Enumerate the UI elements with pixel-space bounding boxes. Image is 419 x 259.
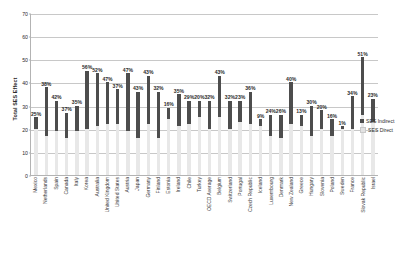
bar-group[interactable]: 52% (92, 14, 102, 175)
stacked-bar[interactable]: 43% (136, 92, 139, 175)
bar-segment-ses-direct[interactable] (85, 129, 88, 175)
bar-group[interactable]: 24% (266, 14, 276, 175)
bar-segment-ses-direct[interactable] (75, 131, 78, 175)
bar-segment-ses-indirect[interactable] (126, 73, 129, 131)
bar-segment-ses-direct[interactable] (249, 124, 252, 175)
bar-segment-ses-indirect[interactable] (228, 101, 231, 129)
bar-group[interactable]: 23% (368, 14, 378, 175)
bar-segment-ses-indirect[interactable] (351, 96, 354, 128)
bar-segment-ses-indirect[interactable] (320, 110, 323, 129)
bar-group[interactable]: 1% (337, 14, 347, 175)
stacked-bar[interactable]: 37% (116, 89, 119, 175)
stacked-bar[interactable]: 1% (341, 126, 344, 175)
bar-segment-ses-direct[interactable] (228, 129, 231, 175)
stacked-bar[interactable]: 13% (300, 115, 303, 175)
bar-segment-ses-indirect[interactable] (177, 94, 180, 126)
bar-segment-ses-indirect[interactable] (96, 73, 99, 126)
bar-segment-ses-indirect[interactable] (85, 71, 88, 129)
stacked-bar[interactable]: 16% (330, 119, 333, 175)
bar-segment-ses-direct[interactable] (126, 131, 129, 175)
bar-group[interactable]: 47% (123, 14, 133, 175)
bar-segment-ses-indirect[interactable] (238, 101, 241, 122)
bar-group[interactable]: 37% (62, 14, 72, 175)
bar-group[interactable]: 35% (174, 14, 184, 175)
stacked-bar[interactable]: 38% (45, 87, 48, 175)
bar-group[interactable]: 40% (286, 14, 296, 175)
bar-segment-ses-indirect[interactable] (208, 101, 211, 129)
bar-segment-ses-direct[interactable] (300, 126, 303, 175)
bar-segment-ses-direct[interactable] (136, 138, 139, 175)
bar-group[interactable]: 13% (296, 14, 306, 175)
bar-group[interactable]: 56% (82, 14, 92, 175)
stacked-bar[interactable]: 35% (177, 94, 180, 175)
bar-segment-ses-direct[interactable] (238, 122, 241, 175)
stacked-bar[interactable]: 29% (187, 101, 190, 175)
bar-segment-ses-indirect[interactable] (249, 92, 252, 124)
bar-segment-ses-direct[interactable] (351, 129, 354, 175)
bar-group[interactable]: 37% (113, 14, 123, 175)
bar-segment-ses-indirect[interactable] (147, 76, 150, 125)
bar-segment-ses-direct[interactable] (157, 138, 160, 175)
stacked-bar[interactable]: 20% (320, 110, 323, 175)
bar-segment-ses-indirect[interactable] (187, 101, 190, 124)
bar-group[interactable]: 16% (164, 14, 174, 175)
bar-segment-ses-indirect[interactable] (167, 108, 170, 120)
bar-segment-ses-direct[interactable] (167, 119, 170, 175)
bar-group[interactable]: 34% (347, 14, 357, 175)
bar-segment-ses-indirect[interactable] (269, 115, 272, 136)
stacked-bar[interactable]: 20% (198, 101, 201, 175)
bar-segment-ses-direct[interactable] (289, 124, 292, 175)
bar-group[interactable]: 32% (204, 14, 214, 175)
stacked-bar[interactable]: 23% (238, 101, 241, 175)
bar-segment-ses-indirect[interactable] (310, 106, 313, 136)
bar-group[interactable]: 20% (194, 14, 204, 175)
stacked-bar[interactable]: 16% (167, 108, 170, 175)
bar-segment-ses-direct[interactable] (208, 129, 211, 175)
bar-group[interactable]: 26% (276, 14, 286, 175)
bar-segment-ses-indirect[interactable] (330, 119, 333, 135)
bar-segment-ses-direct[interactable] (269, 136, 272, 175)
bar-segment-ses-indirect[interactable] (361, 57, 364, 115)
stacked-bar[interactable]: 25% (34, 117, 37, 175)
bar-segment-ses-direct[interactable] (116, 124, 119, 175)
bar-group[interactable]: 25% (31, 14, 41, 175)
stacked-bar[interactable]: 37% (65, 113, 68, 175)
bar-segment-ses-direct[interactable] (177, 126, 180, 175)
stacked-bar[interactable]: 35% (75, 106, 78, 175)
stacked-bar[interactable]: 52% (96, 73, 99, 175)
bar-segment-ses-indirect[interactable] (259, 119, 262, 126)
bar-group[interactable]: 20% (317, 14, 327, 175)
bar-group[interactable]: 43% (215, 14, 225, 175)
bar-segment-ses-direct[interactable] (187, 124, 190, 175)
bar-segment-ses-direct[interactable] (65, 138, 68, 175)
bar-segment-ses-direct[interactable] (45, 136, 48, 175)
stacked-bar[interactable]: 23% (371, 99, 374, 175)
stacked-bar[interactable]: 34% (351, 96, 354, 175)
stacked-bar[interactable]: 47% (126, 73, 129, 175)
bar-segment-ses-direct[interactable] (218, 117, 221, 175)
bar-segment-ses-direct[interactable] (279, 138, 282, 175)
bar-segment-ses-indirect[interactable] (55, 101, 58, 131)
bar-segment-ses-indirect[interactable] (116, 89, 119, 124)
bar-segment-ses-indirect[interactable] (75, 106, 78, 131)
bar-group[interactable]: 9% (255, 14, 265, 175)
bar-group[interactable]: 38% (41, 14, 51, 175)
stacked-bar[interactable]: 24% (269, 115, 272, 175)
bar-segment-ses-indirect[interactable] (65, 113, 68, 138)
bar-segment-ses-indirect[interactable] (289, 82, 292, 124)
stacked-bar[interactable]: 32% (208, 101, 211, 175)
bar-segment-ses-indirect[interactable] (198, 101, 201, 117)
bar-segment-ses-direct[interactable] (320, 129, 323, 175)
stacked-bar[interactable]: 26% (279, 115, 282, 175)
bar-group[interactable]: 32% (153, 14, 163, 175)
stacked-bar[interactable]: 32% (228, 101, 231, 175)
stacked-bar[interactable]: 43% (218, 76, 221, 176)
bar-segment-ses-indirect[interactable] (279, 115, 282, 138)
bar-segment-ses-indirect[interactable] (45, 87, 48, 136)
stacked-bar[interactable]: 30% (310, 106, 313, 175)
bar-segment-ses-direct[interactable] (55, 131, 58, 175)
bar-segment-ses-direct[interactable] (198, 117, 201, 175)
stacked-bar[interactable]: 56% (85, 71, 88, 175)
bar-segment-ses-indirect[interactable] (300, 115, 303, 127)
bar-group[interactable]: 43% (143, 14, 153, 175)
